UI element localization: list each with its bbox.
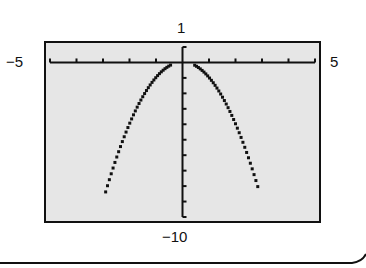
page-border <box>0 0 366 268</box>
